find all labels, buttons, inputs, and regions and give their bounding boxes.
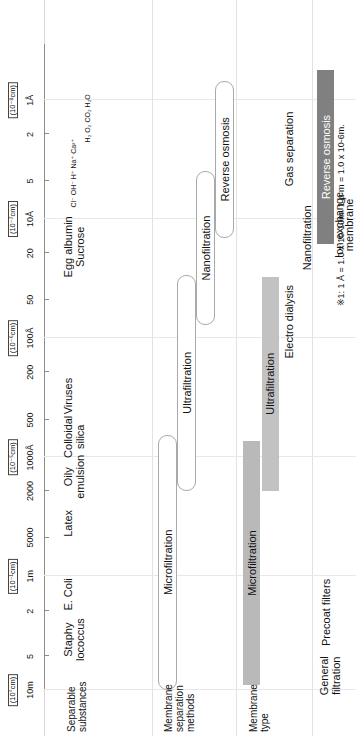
row-caption-substances: Separable substances: [66, 681, 88, 732]
ion-group-label: H₂ O₂ CO₂ H₂O: [84, 94, 92, 142]
axis-tick-label: 20: [26, 248, 35, 258]
separation-method-pill: Nanofiltration: [196, 171, 215, 325]
axis-tick-label: 1000Å: [26, 444, 35, 470]
axis-tick: [44, 537, 49, 538]
membrane-type-bar: Nanofiltration: [299, 173, 316, 302]
substance-label: Viruses: [62, 378, 74, 414]
axis-tick: [44, 371, 49, 372]
membrane-type-label: Ultrafiltration: [265, 353, 275, 415]
membrane-type-bar: Gas separation: [280, 80, 297, 219]
axis-unit-label: (10⁻⁶cm): [8, 320, 18, 356]
axis-unit-label: (10⁻¹cm): [8, 558, 18, 594]
general-filtration-label: General filtration: [318, 656, 342, 695]
membrane-type-label: Electro dialysis: [284, 285, 294, 358]
membrane-type-bar: Microfiltration: [243, 441, 260, 685]
membrane-separation-chart: 10m521m500020001000Å500200100Å502010Å521…: [0, 0, 356, 736]
size-axis-line: [44, 44, 45, 690]
membrane-type-label: Gas separation: [284, 112, 294, 187]
axis-tick-label: 5: [26, 178, 35, 183]
band-divider: [236, 0, 237, 736]
axis-tick-label: 200: [26, 365, 35, 380]
gridline: [44, 337, 356, 338]
band-divider: [312, 0, 313, 736]
axis-tick: [44, 490, 49, 491]
substance-label: Staphy lococcus: [62, 618, 86, 661]
substance-label: Oily emulsion: [62, 455, 86, 499]
axis-tick-label: 2: [26, 609, 35, 614]
substance-label: Colloidal silica: [62, 416, 86, 458]
membrane-type-bar: Ultrafiltration: [262, 277, 279, 491]
separation-method-label: Reverse osmosis: [219, 117, 231, 201]
axis-tick-label: 2000: [26, 481, 35, 501]
separation-method-pill: Ultrafiltration: [177, 275, 196, 491]
separation-method-label: Microfiltration: [162, 530, 174, 595]
axis-tick: [44, 655, 49, 656]
separation-method-label: Nanofiltration: [200, 216, 212, 281]
axis-tick: [44, 299, 49, 300]
gridline: [44, 689, 356, 690]
axis-unit-label: (10⁻⁸cm): [8, 82, 18, 118]
axis-unit-label: (10⁻⁷cm): [8, 201, 18, 237]
membrane-type-bar: Reverse osmosis: [317, 70, 334, 244]
membrane-type-label: Microfiltration: [247, 530, 257, 595]
band-divider: [152, 0, 153, 736]
axis-tick: [44, 419, 49, 420]
row-caption-membrane-type: Membrane type: [248, 684, 270, 732]
membrane-type-label: Reverse osmosis: [321, 115, 331, 199]
substance-label: Egg albumin Sucrose: [62, 216, 86, 277]
axis-tick-label: 100Å: [26, 327, 35, 348]
membrane-type-bar: Electro dialysis: [280, 238, 297, 406]
axis-tick-label: 5000: [26, 528, 35, 548]
axis-tick: [44, 252, 49, 253]
row-caption-methods: Membrane separation methods: [163, 684, 196, 732]
general-filtration-label: Precoat filters: [320, 579, 332, 646]
axis-unit-label: (10⁻⁵cm): [8, 439, 18, 475]
axis-tick-label: 2: [26, 132, 35, 137]
gridline: [44, 575, 356, 576]
substance-label: E. Coli: [62, 578, 74, 610]
gridline: [44, 456, 356, 457]
separation-method-pill: Reverse osmosis: [215, 81, 234, 238]
axis-unit-label: (10°cm): [8, 674, 18, 706]
axis-tick-label: 1Å: [26, 95, 35, 106]
axis-tick: [44, 610, 49, 611]
axis-tick: [44, 180, 49, 181]
axis-tick-label: 10m: [26, 681, 35, 699]
axis-tick: [44, 133, 49, 134]
axis-tick-label: 500: [26, 412, 35, 427]
axis-tick-label: 1m: [26, 570, 35, 583]
footnote: ※1: 1 Å = 1.0 x 10-10m. 1 μ m = 1.0 x 10…: [336, 124, 346, 306]
axis-tick-label: 5: [26, 654, 35, 659]
separation-method-label: Ultrafiltration: [181, 352, 193, 414]
ion-group-label: Cl⁻ OH⁻ H⁺ Na⁺ Ca²⁺: [70, 139, 78, 208]
axis-tick-label: 10Å: [26, 211, 35, 227]
substance-label: Latex: [62, 510, 74, 537]
axis-tick-label: 50: [26, 295, 35, 305]
membrane-type-label: Nanofiltration: [302, 205, 312, 270]
separation-method-pill: Microfiltration: [158, 435, 177, 690]
